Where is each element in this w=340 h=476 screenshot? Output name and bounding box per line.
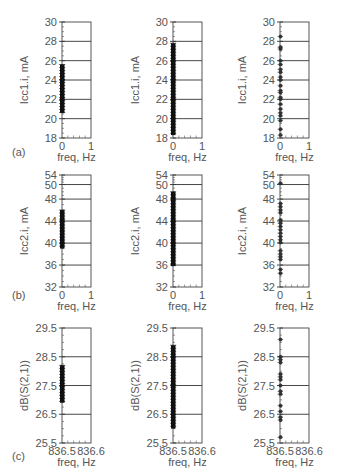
- y-tick-label: 30: [45, 16, 57, 28]
- y-tick-label: 48: [45, 193, 57, 205]
- y-tick-label: 27.5: [147, 380, 168, 392]
- data-series: [59, 365, 65, 402]
- y-tick-label: 44: [156, 215, 168, 227]
- y-tick-label: 18: [45, 132, 57, 144]
- y-tick-label: 20: [45, 113, 57, 125]
- subplot-2-3: 3236404448505401freq, HzIcc2.i, mA: [236, 169, 314, 312]
- subplot-1-1: 1820222426283001freq, HzIcc1.i, mA: [18, 16, 96, 163]
- y-tick-label: 26: [45, 55, 57, 67]
- data-series: [170, 345, 176, 428]
- y-tick-label: 18: [263, 132, 275, 144]
- y-tick-label: 28: [45, 35, 57, 47]
- y-tick-label: 29.5: [147, 322, 168, 334]
- row-label: (c): [12, 450, 25, 462]
- y-tick-label: 32: [45, 281, 57, 293]
- row-label: (a): [12, 146, 25, 158]
- y-axis-label: Icc2.i, mA: [18, 206, 30, 255]
- x-axis-label: freq, Hz: [275, 300, 314, 312]
- y-tick-label: 40: [263, 237, 275, 249]
- y-axis-label: Icc2.i, mA: [129, 206, 141, 255]
- y-tick-label: 48: [156, 193, 168, 205]
- y-tick-label: 22: [263, 93, 275, 105]
- y-tick-label: 30: [263, 16, 275, 28]
- y-tick-label: 28: [156, 35, 168, 47]
- y-tick-label: 32: [156, 281, 168, 293]
- data-series: [170, 192, 176, 266]
- y-tick-label: 36: [156, 259, 168, 271]
- x-axis-label: freq, Hz: [275, 456, 314, 468]
- y-tick-label: 27.5: [254, 380, 275, 392]
- subplot-1-3: 1820222426283001freq, HzIcc1.i, mA: [236, 16, 314, 163]
- y-tick-label: 32: [263, 281, 275, 293]
- y-tick-label: 26.5: [254, 408, 275, 420]
- y-tick-label: 40: [45, 237, 57, 249]
- y-tick-label: 18: [156, 132, 168, 144]
- y-tick-label: 26: [156, 55, 168, 67]
- x-axis-label: freq, Hz: [57, 300, 96, 312]
- y-tick-label: 27.5: [36, 380, 57, 392]
- y-tick-label: 22: [45, 93, 57, 105]
- y-axis-label: Icc1.i, mA: [18, 55, 30, 104]
- y-tick-label: 44: [45, 215, 57, 227]
- y-tick-label: 24: [156, 74, 168, 86]
- x-axis-label: freq, Hz: [57, 151, 96, 163]
- plot-frame: [173, 175, 202, 287]
- y-axis-label: dB(S(2,1)): [129, 360, 141, 411]
- data-series: [170, 43, 176, 135]
- y-tick-label: 36: [263, 259, 275, 271]
- data-series: [278, 35, 284, 137]
- y-tick-label: 29.5: [36, 322, 57, 334]
- y-tick-label: 26.5: [36, 408, 57, 420]
- plot-frame: [280, 175, 309, 287]
- y-tick-label: 20: [156, 113, 168, 125]
- y-axis-label: Icc1.i, mA: [129, 55, 141, 104]
- y-axis-label: Icc2.i, mA: [236, 206, 248, 255]
- y-tick-label: 29.5: [254, 322, 275, 334]
- y-tick-label: 54: [156, 169, 168, 181]
- y-tick-label: 28.5: [36, 351, 57, 363]
- y-tick-label: 22: [156, 93, 168, 105]
- x-axis-label: freq, Hz: [275, 151, 314, 163]
- subplot-3-1: 25.526.527.528.529.5836.5836.6freq, HzdB…: [18, 322, 105, 468]
- subplot-3-3: 25.526.527.528.529.5836.5836.6freq, HzdB…: [236, 322, 323, 468]
- y-tick-label: 54: [45, 169, 57, 181]
- x-axis-label: freq, Hz: [168, 151, 207, 163]
- y-tick-label: 24: [263, 74, 275, 86]
- x-axis-label: freq, Hz: [57, 456, 96, 468]
- y-tick-label: 28.5: [147, 351, 168, 363]
- y-tick-label: 28.5: [254, 351, 275, 363]
- x-axis-label: freq, Hz: [168, 456, 207, 468]
- y-axis-label: dB(S(2,1)): [236, 360, 248, 411]
- y-tick-label: 26: [263, 55, 275, 67]
- y-tick-label: 36: [45, 259, 57, 271]
- y-tick-label: 30: [156, 16, 168, 28]
- x-axis-label: freq, Hz: [168, 300, 207, 312]
- plot-frame: [62, 175, 91, 287]
- y-tick-label: 20: [263, 113, 275, 125]
- data-series: [59, 210, 65, 249]
- y-tick-label: 26.5: [147, 408, 168, 420]
- data-series: [59, 65, 65, 113]
- y-tick-label: 40: [156, 237, 168, 249]
- y-axis-label: Icc1.i, mA: [236, 55, 248, 104]
- y-tick-label: 24: [45, 74, 57, 86]
- y-tick-label: 44: [263, 215, 275, 227]
- y-axis-label: dB(S(2,1)): [18, 360, 30, 411]
- row-label: (b): [12, 289, 25, 301]
- y-tick-label: 54: [263, 169, 275, 181]
- subplot-2-1: 3236404448505401freq, HzIcc2.i, mA: [18, 169, 96, 312]
- figure: 1820222426283001freq, HzIcc1.i, mA182022…: [0, 0, 340, 476]
- subplot-2-2: 3236404448505401freq, HzIcc2.i, mA: [129, 169, 207, 312]
- y-tick-label: 48: [263, 193, 275, 205]
- y-tick-label: 28: [263, 35, 275, 47]
- subplot-1-2: 1820222426283001freq, HzIcc1.i, mA: [129, 16, 207, 163]
- subplot-3-2: 25.526.527.528.529.5836.5836.6freq, HzdB…: [129, 322, 216, 468]
